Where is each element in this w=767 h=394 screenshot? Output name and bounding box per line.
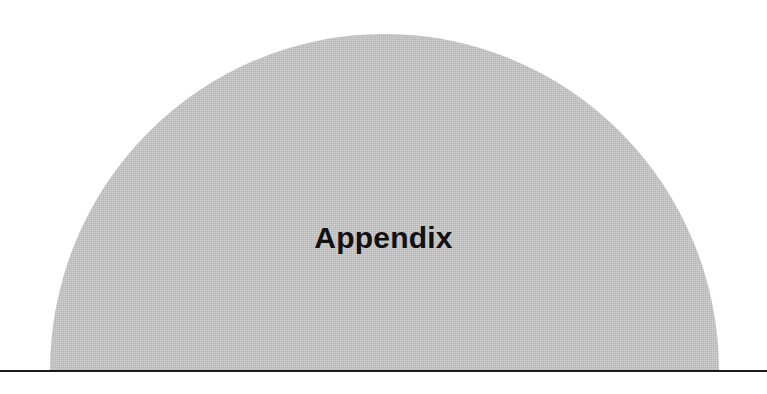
semicircle-backdrop	[50, 34, 719, 371]
appendix-title-page: Appendix	[0, 0, 767, 394]
horizontal-rule	[0, 370, 767, 372]
section-title: Appendix	[0, 220, 767, 256]
